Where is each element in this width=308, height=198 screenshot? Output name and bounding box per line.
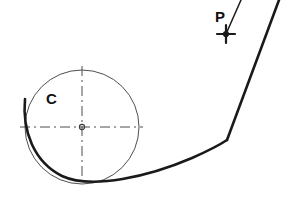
point-p-crosshair-icon (217, 25, 235, 43)
generating-tangent-line (226, 0, 241, 34)
involute-outer-leg (227, 0, 279, 140)
involute-spiral-curve (25, 99, 227, 182)
circle-label-c: C (46, 91, 57, 106)
point-label-p: P (215, 9, 225, 24)
technical-drawing-canvas: C P (0, 0, 308, 198)
